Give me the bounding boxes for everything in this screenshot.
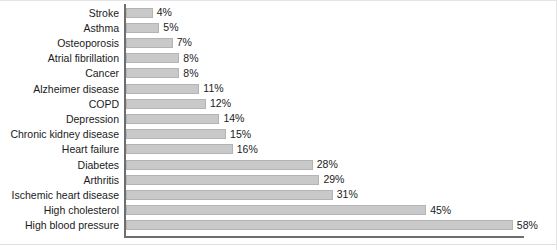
bar [126, 220, 513, 230]
bar-track [126, 220, 513, 230]
bar-track [126, 38, 173, 48]
bar [126, 38, 173, 48]
value-label: 45% [430, 204, 451, 216]
category-label: Osteoporosis [0, 37, 119, 49]
bar-row: Atrial fibrillation8% [0, 51, 557, 66]
category-label: Heart failure [0, 143, 119, 155]
bar [126, 99, 206, 109]
bar-row: Diabetes28% [0, 157, 557, 172]
value-label: 58% [517, 219, 538, 231]
bar-track [126, 160, 313, 170]
bar-track [126, 144, 233, 154]
value-label: 8% [183, 67, 198, 79]
bar [126, 84, 199, 94]
bar [126, 68, 179, 78]
category-label: Chronic kidney disease [0, 128, 119, 140]
bar-track [126, 190, 333, 200]
bar-row: Arthritis29% [0, 172, 557, 187]
bar [126, 114, 219, 124]
value-label: 7% [177, 36, 192, 48]
value-label: 29% [323, 173, 344, 185]
bar [126, 8, 153, 18]
bar [126, 205, 426, 215]
category-label: Depression [0, 113, 119, 125]
bar-row: Heart failure16% [0, 142, 557, 157]
bar-row: Depression14% [0, 111, 557, 126]
category-label: Cancer [0, 67, 119, 79]
bar-track [126, 99, 206, 109]
bar-row: Chronic kidney disease15% [0, 127, 557, 142]
bar-row: COPD12% [0, 96, 557, 111]
value-label: 14% [223, 112, 244, 124]
frame-bottom-rule [0, 244, 557, 245]
category-label: Diabetes [0, 159, 119, 171]
bar-track [126, 68, 179, 78]
bar-track [126, 84, 199, 94]
bar-track [126, 175, 319, 185]
value-label: 4% [157, 6, 172, 18]
bar [126, 144, 233, 154]
bar-row: Ischemic heart disease31% [0, 187, 557, 202]
category-label: High cholesterol [0, 204, 119, 216]
category-label: COPD [0, 98, 119, 110]
bar-track [126, 114, 219, 124]
category-label: Atrial fibrillation [0, 52, 119, 64]
bar [126, 190, 333, 200]
bar-track [126, 53, 179, 63]
value-label: 28% [317, 158, 338, 170]
bar-row: Asthma5% [0, 20, 557, 35]
value-label: 16% [237, 143, 258, 155]
value-label: 5% [163, 21, 178, 33]
bar-row: High blood pressure58% [0, 218, 557, 233]
bar-row: Osteoporosis7% [0, 35, 557, 50]
value-axis-line [124, 236, 524, 238]
value-label: 31% [337, 188, 358, 200]
category-label: Stroke [0, 7, 119, 19]
bar [126, 160, 313, 170]
value-label: 12% [210, 97, 231, 109]
bar-track [126, 129, 226, 139]
bar-chart: Stroke4%Asthma5%Osteoporosis7%Atrial fib… [0, 0, 557, 250]
bar [126, 175, 319, 185]
category-label: Arthritis [0, 174, 119, 186]
bar-row: High cholesterol45% [0, 203, 557, 218]
value-label: 15% [230, 128, 251, 140]
bar-row: Alzheimer disease11% [0, 81, 557, 96]
bar-track [126, 23, 159, 33]
bar-track [126, 205, 426, 215]
value-label: 11% [203, 82, 223, 94]
bar [126, 53, 179, 63]
bar-row: Cancer8% [0, 66, 557, 81]
value-label: 8% [183, 52, 198, 64]
category-label: Ischemic heart disease [0, 189, 119, 201]
bar-row: Stroke4% [0, 5, 557, 20]
category-label: High blood pressure [0, 219, 119, 231]
bar [126, 23, 159, 33]
category-label: Alzheimer disease [0, 83, 119, 95]
bar-track [126, 8, 153, 18]
bar [126, 129, 226, 139]
category-label: Asthma [0, 22, 119, 34]
